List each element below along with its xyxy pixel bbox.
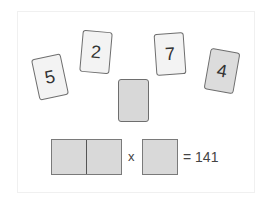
multiply-operator: x	[128, 149, 135, 164]
card-2[interactable]: 2	[79, 30, 113, 74]
one-digit-slot[interactable]	[142, 139, 178, 175]
card-7[interactable]: 7	[154, 32, 187, 76]
card-4-value: 4	[215, 60, 229, 82]
card-5-value: 5	[43, 66, 57, 89]
card-2-value: 2	[90, 41, 102, 63]
equation-result: = 141	[183, 149, 218, 165]
slot-divider	[86, 140, 87, 174]
two-digit-slot[interactable]	[51, 139, 122, 175]
card-facedown[interactable]	[118, 79, 149, 122]
card-7-value: 7	[164, 43, 175, 65]
